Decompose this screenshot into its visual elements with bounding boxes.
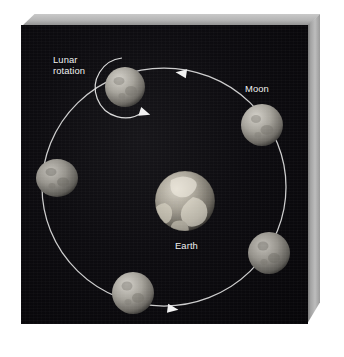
moon-icon xyxy=(112,272,154,314)
label-lunar-rotation: Lunar rotation xyxy=(53,54,85,77)
slab-right-bevel xyxy=(307,14,320,324)
lunar-orbit-figure: Lunar rotation Moon Earth xyxy=(0,0,344,357)
moon-icon xyxy=(105,67,145,107)
figure-slab: Lunar rotation Moon Earth xyxy=(0,0,344,357)
moon-icon xyxy=(248,232,290,274)
earth-globe-icon xyxy=(154,171,215,236)
space-background-panel: Lunar rotation Moon Earth xyxy=(21,25,308,324)
label-earth: Earth xyxy=(175,240,198,251)
moon-icon xyxy=(36,159,78,197)
label-moon: Moon xyxy=(245,83,269,94)
moon-icon xyxy=(241,104,283,146)
